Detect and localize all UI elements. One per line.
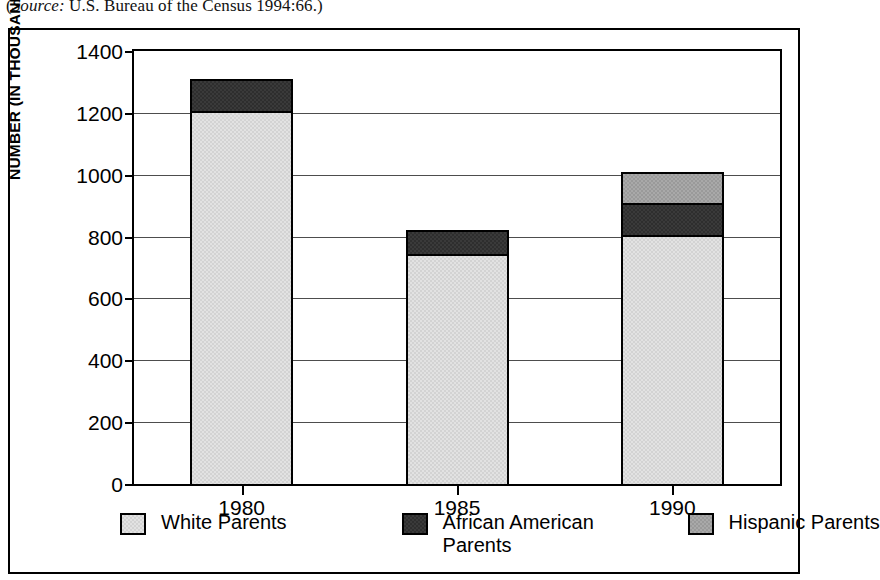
y-tick-label: 0	[63, 474, 123, 495]
legend-swatch-white-parents	[120, 513, 146, 535]
x-tick-mark	[242, 486, 244, 495]
y-tick-label: 600	[63, 288, 123, 309]
legend-swatch-hispanic-parents	[688, 513, 714, 535]
legend-swatch-african-american-parents	[402, 513, 428, 535]
bar-segment-1990-hispanic-parents[interactable]	[621, 172, 724, 205]
y-tick-mark	[125, 422, 132, 424]
y-tick-label: 1000	[63, 165, 123, 186]
bar-segment-1980-african-american-parents[interactable]	[190, 79, 293, 113]
legend-item-hispanic-parents[interactable]: Hispanic Parents	[688, 511, 880, 535]
y-tick-label: 200	[63, 412, 123, 433]
y-tick-mark	[125, 237, 132, 239]
y-tick-mark	[125, 360, 132, 362]
figure-frame: NUMBER (IN THOUSANDS) 020040060080010001…	[8, 28, 800, 574]
bar-group-1985[interactable]	[406, 51, 509, 484]
bar-segment-1990-white-parents[interactable]	[621, 235, 724, 486]
legend-item-african-american-parents[interactable]: African American Parents	[402, 511, 613, 557]
bar-group-1980[interactable]	[190, 51, 293, 484]
x-tick-mark	[672, 486, 674, 495]
y-tick-mark	[125, 484, 132, 486]
y-axis-title: NUMBER (IN THOUSANDS)	[6, 0, 24, 180]
legend-item-white-parents[interactable]: White Parents	[120, 511, 287, 535]
y-tick-mark	[125, 51, 132, 53]
legend-label-hispanic-parents: Hispanic Parents	[729, 511, 880, 534]
x-tick-mark	[457, 486, 459, 495]
y-tick-label: 400	[63, 350, 123, 371]
legend-label-african-american-parents: African American Parents	[443, 511, 613, 557]
y-tick-label: 1200	[63, 103, 123, 124]
source-note-text: U.S. Bureau of the Census 1994:66.)	[65, 0, 323, 15]
bar-segment-1980-white-parents[interactable]	[190, 111, 293, 486]
bar-segment-1985-white-parents[interactable]	[406, 254, 509, 486]
bar-segment-1985-african-american-parents[interactable]	[406, 230, 509, 255]
source-note: (Source: U.S. Bureau of the Census 1994:…	[6, 0, 796, 20]
bar-segment-1990-african-american-parents[interactable]	[621, 203, 724, 237]
legend-label-white-parents: White Parents	[161, 511, 287, 534]
y-tick-mark	[125, 298, 132, 300]
y-tick-label: 800	[63, 227, 123, 248]
plot-area	[132, 49, 782, 486]
y-tick-mark	[125, 175, 132, 177]
chart-legend: White ParentsAfrican American ParentsHis…	[30, 511, 782, 567]
y-tick-mark	[125, 113, 132, 115]
y-tick-label: 1400	[63, 41, 123, 62]
bar-group-1990[interactable]	[621, 51, 724, 484]
